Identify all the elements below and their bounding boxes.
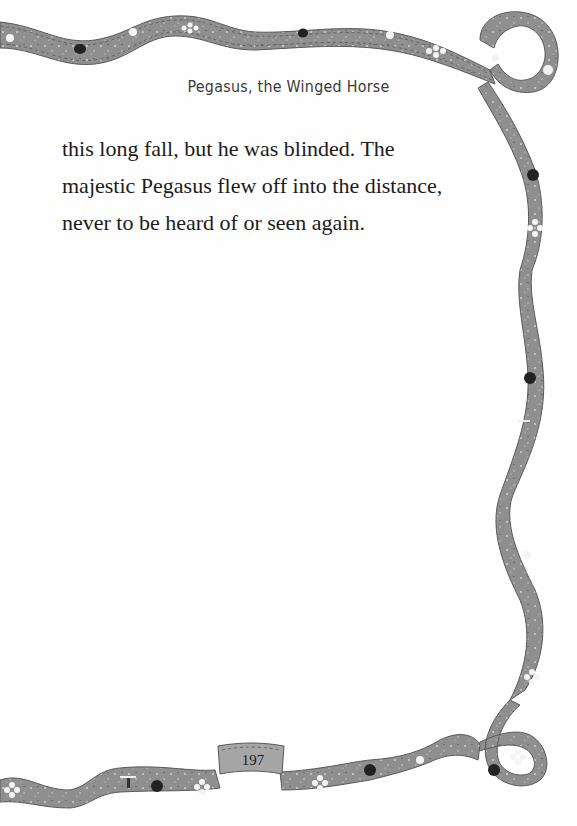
body-line: this long fall, but he was blinded. The (62, 130, 492, 167)
body-line: majestic Pegasus flew off into the dista… (62, 167, 492, 204)
body-text: this long fall, but he was blinded. The … (62, 130, 492, 241)
bird-icon (523, 551, 531, 559)
book-page: Pegasus, the Winged Horse this long fall… (0, 0, 577, 826)
ladybug-icon (488, 764, 500, 776)
page-number: 197 (233, 752, 273, 769)
ribbon-border (0, 0, 577, 826)
running-head: Pegasus, the Winged Horse (23, 78, 554, 96)
top-ribbon (0, 16, 495, 84)
ladybug-icon (74, 44, 86, 54)
dragonfly-icon (518, 420, 530, 422)
ladybug-icon (298, 29, 308, 38)
bottom-ribbon (0, 735, 480, 808)
flower-icon (510, 749, 526, 765)
ladybug-icon (524, 372, 536, 384)
ladybug-icon (364, 764, 376, 776)
bird-icon (386, 31, 394, 39)
ladybug-icon (527, 169, 539, 181)
bubble-icon (6, 34, 14, 42)
body-line: never to be heard of or seen again. (62, 204, 492, 241)
bird-icon (492, 55, 499, 62)
ladybug-icon (151, 780, 163, 792)
bird-icon (416, 756, 424, 764)
bird-icon (129, 28, 137, 36)
bottom-right-loop (476, 700, 547, 786)
flower-icon (543, 65, 553, 75)
